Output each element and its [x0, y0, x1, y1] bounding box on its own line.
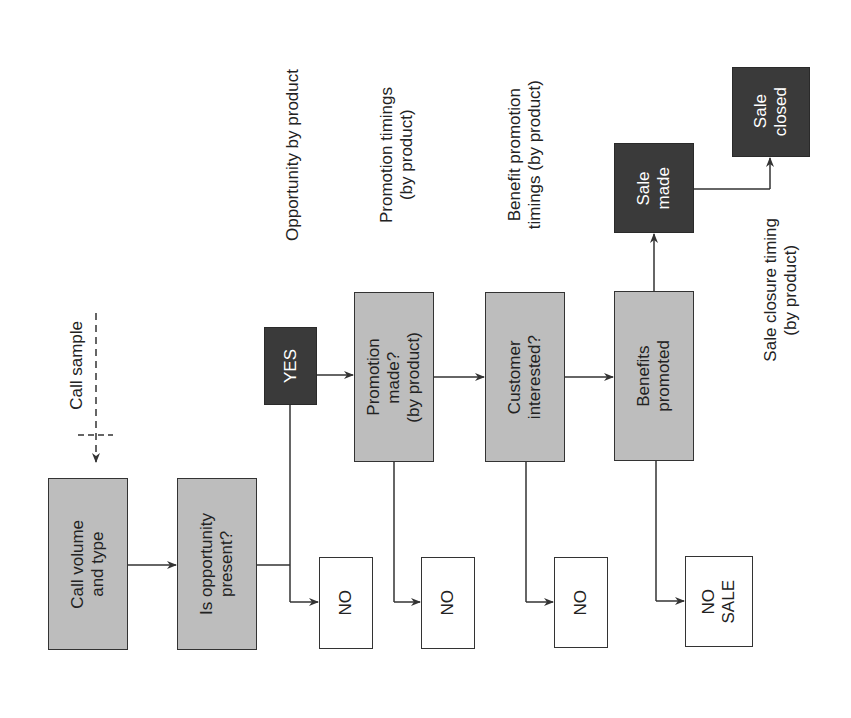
- sale-closure-timing-annotation: Sale closure timing (by product): [756, 200, 806, 380]
- promotion-label: Promotion made? (by product): [364, 332, 424, 423]
- yes-node: YES: [264, 327, 317, 405]
- no-label-2: NO: [438, 590, 458, 616]
- call-volume-label: Call volume and type: [68, 520, 108, 609]
- no-node-3: NO: [554, 557, 608, 648]
- no-label-1: NO: [336, 590, 356, 616]
- customer-interested-node: Customer interested?: [485, 292, 565, 462]
- benefit-promotion-timings-annotation: Benefit promotion timings (by product): [500, 60, 550, 250]
- no-sale-node: NO SALE: [685, 556, 753, 647]
- sale-made-node: Sale made: [614, 143, 694, 233]
- opportunity-label: Is opportunity present?: [197, 513, 237, 615]
- opportunity-node: Is opportunity present?: [177, 478, 257, 650]
- benefits-promoted-node: Benefits promoted: [614, 291, 694, 461]
- opportunity-by-product-annotation: Opportunity by product: [278, 40, 308, 270]
- no-label-3: NO: [571, 590, 591, 616]
- sale-closed-label: Sale closed: [751, 87, 791, 136]
- call-volume-node: Call volume and type: [48, 478, 128, 650]
- promotion-timings-annotation: Promotion timings (by product): [372, 70, 422, 240]
- customer-interested-label: Customer interested?: [505, 335, 545, 419]
- no-node-1: NO: [319, 557, 373, 649]
- promotion-node: Promotion made? (by product): [354, 292, 434, 462]
- yes-label: YES: [281, 349, 301, 383]
- benefits-promoted-label: Benefits promoted: [634, 340, 674, 412]
- no-node-2: NO: [421, 557, 475, 649]
- sale-made-label: Sale made: [634, 167, 674, 210]
- no-sale-label: NO SALE: [699, 580, 739, 623]
- sale-closed-node: Sale closed: [732, 67, 810, 157]
- call-sample-annotation: Call sample: [62, 300, 92, 430]
